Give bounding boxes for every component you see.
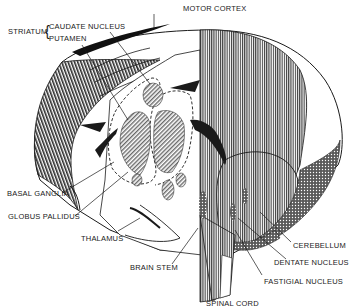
label-fastigial-nucleus: FASTIGIAL NUCLEUS [264, 278, 343, 286]
label-thalamus: THALAMUS [81, 235, 123, 243]
dentate-nucleus-shape [230, 203, 236, 221]
label-globus-pallidus: GLOBUS PALLIDUS [8, 213, 80, 221]
label-brain-stem: BRAIN STEM [130, 264, 178, 272]
caudate-nucleus-shape [143, 83, 163, 107]
label-putamen: PUTAMEN [49, 35, 87, 43]
label-dentate-nucleus: DENTATE NUCLEUS [274, 259, 349, 267]
label-motor-cortex: MOTOR CORTEX [183, 5, 246, 13]
label-striatum: STRIATUM [8, 28, 47, 36]
label-spinal-cord: SPINAL CORD [206, 300, 259, 308]
label-basal-ganglia: BASAL GANGLIA [7, 190, 69, 198]
label-caudate-nucleus: CAUDATE NUCLEUS [49, 23, 125, 31]
thalamus-shape [162, 180, 174, 200]
brain-diagram: MOTOR CORTEX STRIATUM { CAUDATE NUCLEUS … [0, 0, 350, 308]
fastigial-nucleus-shape [199, 191, 207, 219]
label-cerebellum: CEREBELLUM [293, 242, 346, 250]
